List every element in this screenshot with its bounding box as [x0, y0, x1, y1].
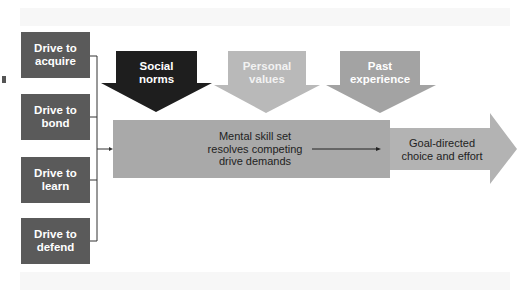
drive-box-acquire: Drive to acquire: [21, 32, 90, 78]
personal-values-label: Personal values: [228, 60, 306, 86]
connector-arrowhead: [109, 147, 113, 151]
drive-label: Drive to defend: [34, 228, 77, 254]
drive-box-learn: Drive to learn: [21, 157, 90, 203]
outcome-label: Goal-directed choice and effort: [392, 137, 492, 162]
process-label: Mental skill set resolves competing driv…: [190, 130, 320, 168]
drive-label: Drive to bond: [34, 104, 77, 130]
drive-box-bond: Drive to bond: [21, 94, 90, 140]
drive-label: Drive to learn: [34, 167, 77, 193]
drive-box-defend: Drive to defend: [21, 218, 90, 264]
past-experience-label: Past experience: [340, 60, 420, 86]
social-norms-label: Social norms: [116, 60, 197, 86]
drive-label: Drive to acquire: [34, 42, 77, 68]
